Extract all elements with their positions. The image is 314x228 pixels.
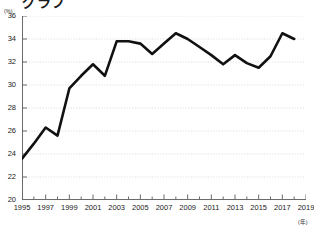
y-axis-tick-label: 28 bbox=[0, 104, 16, 112]
page-title: グラフ bbox=[22, 0, 66, 10]
gridlines bbox=[23, 16, 306, 177]
data-series-line bbox=[22, 33, 294, 158]
y-axis-tick-label: 34 bbox=[0, 35, 16, 43]
x-axis-tick-label: 2007 bbox=[156, 203, 173, 212]
y-axis-tick-label: 24 bbox=[0, 150, 16, 158]
x-axis-tick-label: 2003 bbox=[108, 203, 125, 212]
x-axis-tick-label: 2017 bbox=[274, 203, 291, 212]
x-axis-tick-label: 1999 bbox=[61, 203, 78, 212]
chart-title-strip: グラフ bbox=[0, 0, 314, 10]
x-axis-tick-label: 2013 bbox=[227, 203, 244, 212]
y-axis-tick-label: 30 bbox=[0, 81, 16, 89]
x-axis-tick-label: 2011 bbox=[203, 203, 219, 212]
x-axis-tick-label: 2005 bbox=[132, 203, 149, 212]
plot-area bbox=[22, 16, 306, 200]
y-axis-tick-label: 36 bbox=[0, 12, 16, 20]
x-axis-unit-label: (年) bbox=[298, 218, 308, 226]
plot-svg bbox=[22, 16, 306, 200]
x-axis-tick-label: 1995 bbox=[14, 203, 31, 212]
line-chart: グラフ (%) 363432302826242220 1995199719992… bbox=[0, 0, 314, 228]
x-axis-tick-label: 2019 bbox=[298, 203, 314, 212]
x-axis-tick-label: 1997 bbox=[37, 203, 54, 212]
y-axis-tick-label: 22 bbox=[0, 173, 16, 181]
x-axis-tick-label: 2001 bbox=[85, 203, 102, 212]
x-axis-tick-label: 2009 bbox=[179, 203, 196, 212]
y-axis-ticks bbox=[23, 16, 27, 200]
x-axis-tick-label: 2015 bbox=[250, 203, 267, 212]
y-axis-tick-label: 32 bbox=[0, 58, 16, 66]
y-axis-tick-labels: 363432302826242220 bbox=[0, 0, 16, 228]
x-axis-ticks bbox=[22, 195, 306, 200]
y-axis-tick-label: 26 bbox=[0, 127, 16, 135]
